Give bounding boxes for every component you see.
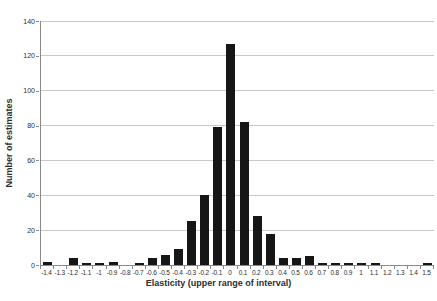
y-tick-mark-100 xyxy=(36,91,39,92)
gridline-y-60 xyxy=(41,160,434,161)
x-tick-label-0.5: 0.5 xyxy=(291,269,299,277)
x-tick-mark-15 xyxy=(237,266,238,269)
x-tick-mark-18 xyxy=(276,266,277,269)
x-tick-label--0.8: -0.8 xyxy=(120,269,130,277)
gridline-y-100 xyxy=(41,90,434,91)
x-tick-label--0.3: -0.3 xyxy=(185,269,195,277)
x-tick-label-0.8: 0.8 xyxy=(331,269,339,277)
x-tick-mark-23 xyxy=(341,266,342,269)
x-tick-mark-14 xyxy=(223,266,224,269)
bar--0.5 xyxy=(161,255,170,265)
bar-0.1 xyxy=(240,122,249,265)
x-axis-title: Elasticity (upper range of interval) xyxy=(0,278,437,288)
y-tick-mark-20 xyxy=(36,230,39,231)
bar-1.1 xyxy=(371,263,380,265)
bar-0.9 xyxy=(344,263,353,265)
x-tick-mark-17 xyxy=(263,266,264,269)
x-tick-label--0.5: -0.5 xyxy=(159,269,169,277)
gridline-y-140 xyxy=(41,21,434,22)
x-tick-label-1.1: 1.1 xyxy=(370,269,378,277)
x-tick-label-1: 1 xyxy=(359,269,362,277)
y-tick-label-80: 80 xyxy=(9,121,35,130)
x-tick-label-1.4: 1.4 xyxy=(409,269,417,277)
x-tick-mark-19 xyxy=(289,266,290,269)
x-tick-mark-30 xyxy=(433,266,434,269)
x-tick-mark-24 xyxy=(354,266,355,269)
x-tick-mark-22 xyxy=(328,266,329,269)
bar--1 xyxy=(95,263,104,265)
x-tick-mark-21 xyxy=(315,266,316,269)
bar--1.1 xyxy=(82,263,91,265)
bar-0 xyxy=(226,44,235,265)
x-tick-label-0.3: 0.3 xyxy=(265,269,273,277)
bar-1 xyxy=(357,263,366,265)
y-tick-label-0: 0 xyxy=(9,261,35,270)
x-tick-label--1: -1 xyxy=(96,269,101,277)
x-tick-label--0.9: -0.9 xyxy=(107,269,117,277)
bar--0.2 xyxy=(200,195,209,265)
y-tick-mark-120 xyxy=(36,56,39,57)
x-tick-label--0.7: -0.7 xyxy=(133,269,143,277)
x-tick-label-0.6: 0.6 xyxy=(304,269,312,277)
bar--0.3 xyxy=(187,221,196,265)
x-tick-mark-28 xyxy=(407,266,408,269)
y-tick-label-140: 140 xyxy=(9,17,35,26)
bar-0.7 xyxy=(318,263,327,265)
y-tick-label-60: 60 xyxy=(9,156,35,165)
x-tick-label-0: 0 xyxy=(228,269,231,277)
x-tick-label--0.1: -0.1 xyxy=(212,269,222,277)
bar-0.5 xyxy=(292,258,301,265)
x-tick-label-0.2: 0.2 xyxy=(252,269,260,277)
y-tick-label-120: 120 xyxy=(9,51,35,60)
x-tick-label-0.4: 0.4 xyxy=(278,269,286,277)
elasticity-histogram-figure: Number of estimates Elasticity (upper ra… xyxy=(0,0,437,301)
x-tick-mark-27 xyxy=(394,266,395,269)
x-tick-label--1.2: -1.2 xyxy=(68,269,78,277)
x-tick-label--0.4: -0.4 xyxy=(172,269,182,277)
bar-0.3 xyxy=(266,234,275,265)
x-tick-label-1.3: 1.3 xyxy=(396,269,404,277)
x-tick-label-0.1: 0.1 xyxy=(239,269,247,277)
x-tick-label-1.5: 1.5 xyxy=(422,269,430,277)
x-tick-label-1.2: 1.2 xyxy=(383,269,391,277)
gridline-y-40 xyxy=(41,195,434,196)
bar--0.6 xyxy=(148,258,157,265)
bar--1.4 xyxy=(43,262,52,265)
gridline-y-20 xyxy=(41,230,434,231)
y-axis-title: Number of estimates xyxy=(4,98,14,187)
x-tick-mark-20 xyxy=(302,266,303,269)
bar-1.5 xyxy=(423,263,432,265)
y-tick-mark-80 xyxy=(36,126,39,127)
x-tick-label-0.7: 0.7 xyxy=(317,269,325,277)
bar--1.2 xyxy=(69,258,78,265)
bar-0.2 xyxy=(253,216,262,265)
x-tick-mark-29 xyxy=(420,266,421,269)
y-tick-label-100: 100 xyxy=(9,86,35,95)
y-tick-label-40: 40 xyxy=(9,191,35,200)
gridline-y-120 xyxy=(41,55,434,56)
bar-0.8 xyxy=(331,263,340,265)
x-tick-label--0.6: -0.6 xyxy=(146,269,156,277)
x-tick-mark-25 xyxy=(368,266,369,269)
x-tick-label--0.2: -0.2 xyxy=(199,269,209,277)
x-tick-mark-26 xyxy=(381,266,382,269)
gridline-y-80 xyxy=(41,125,434,126)
y-tick-mark-140 xyxy=(36,21,39,22)
x-tick-mark-4 xyxy=(92,266,93,269)
bar-0.6 xyxy=(305,256,314,265)
y-tick-mark-0 xyxy=(36,265,39,266)
bar--0.7 xyxy=(135,263,144,265)
x-tick-label--1.3: -1.3 xyxy=(54,269,64,277)
x-tick-mark-16 xyxy=(250,266,251,269)
bar--0.1 xyxy=(213,127,222,265)
bar--0.9 xyxy=(109,262,118,265)
y-tick-mark-60 xyxy=(36,160,39,161)
bar--0.4 xyxy=(174,249,183,265)
x-tick-label-0.9: 0.9 xyxy=(344,269,352,277)
y-tick-label-20: 20 xyxy=(9,226,35,235)
plot-area xyxy=(40,21,434,266)
x-tick-label--1.1: -1.1 xyxy=(81,269,91,277)
x-tick-label--1.4: -1.4 xyxy=(41,269,51,277)
y-tick-mark-40 xyxy=(36,195,39,196)
bar-0.4 xyxy=(279,258,288,265)
